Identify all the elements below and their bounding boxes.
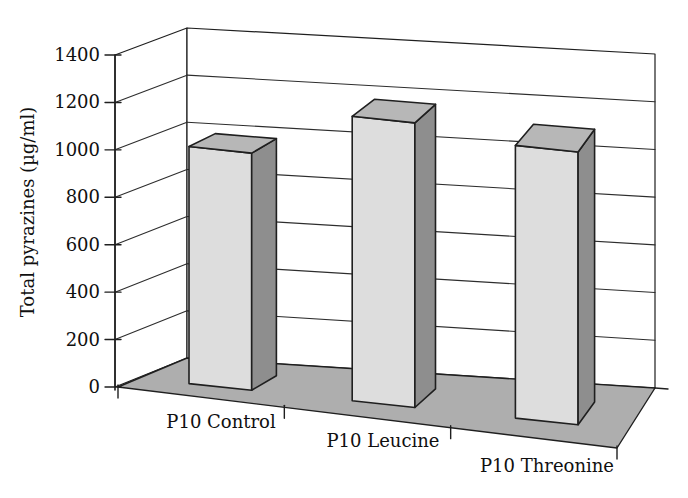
pyrazines-3d-bar-chart: 0 200 400 600 800 1000 1200 1400 P10 Con… <box>0 0 688 498</box>
y-tick-label-800: 800 <box>66 186 100 207</box>
y-tick-label-200: 200 <box>66 329 100 350</box>
y-tick-label-1000: 1000 <box>54 139 100 160</box>
bar-p10-control-front-face <box>189 147 252 391</box>
bar-p10-control-side-face <box>252 139 277 391</box>
bar-p10-threonine-front-face <box>515 145 578 424</box>
y-tick-label-1200: 1200 <box>54 91 100 112</box>
chart-geometry <box>105 28 668 459</box>
bar-p10-leucine-front-face <box>352 116 415 407</box>
x-category-label-p10-control: P10 Control <box>166 411 276 432</box>
y-tick-label-400: 400 <box>66 281 100 302</box>
x-category-label-p10-leucine: P10 Leucine <box>326 430 439 451</box>
y-tick-label-600: 600 <box>66 234 100 255</box>
depth-axis-tick <box>655 388 668 389</box>
chart-figure: 0 200 400 600 800 1000 1200 1400 P10 Con… <box>0 0 688 498</box>
y-tick-label-1400: 1400 <box>54 44 100 65</box>
y-axis-title: Total pyrazines (µg/ml) <box>17 107 38 318</box>
y-tick-label-0: 0 <box>89 376 100 397</box>
x-category-label-p10-threonine: P10 Threonine <box>480 455 614 476</box>
bar-p10-leucine-side-face <box>415 104 436 407</box>
bar-p10-threonine-side-face <box>578 129 595 424</box>
chart-left-wall <box>115 28 187 387</box>
